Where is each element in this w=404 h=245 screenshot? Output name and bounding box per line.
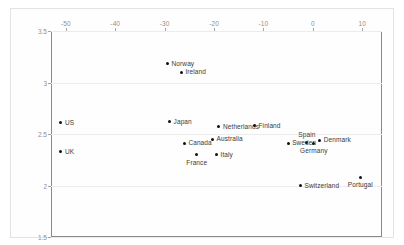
data-point-marker <box>166 62 169 65</box>
scatter-plot: -50-40-30-20-10010 1.522.533.5 NorwayIre… <box>51 31 382 237</box>
data-point-marker <box>168 120 171 123</box>
data-point-label: Denmark <box>324 136 351 143</box>
data-point-label: Portugal <box>348 181 373 188</box>
data-point-label: Germany <box>300 147 327 154</box>
data-point-label: Finland <box>259 122 281 129</box>
y-tick-label: 3.5 <box>31 28 47 35</box>
y-tick-mark <box>48 31 51 32</box>
data-point-marker <box>183 142 186 145</box>
x-tick-mark <box>165 28 166 31</box>
x-tick-label: -40 <box>110 20 120 27</box>
x-tick-label: 10 <box>359 20 366 27</box>
data-point-marker <box>359 176 362 179</box>
data-point-label: Norway <box>172 60 195 67</box>
y-tick-label: 2.5 <box>31 131 47 138</box>
x-tick-mark <box>214 28 215 31</box>
x-tick-mark <box>263 28 264 31</box>
data-point-marker <box>195 153 198 156</box>
y-tick-label: 2 <box>31 182 47 189</box>
data-point-marker <box>59 121 62 124</box>
data-point-label: Ireland <box>185 68 206 75</box>
data-point-marker <box>318 139 321 142</box>
data-point-marker <box>215 153 218 156</box>
gridline <box>51 83 382 84</box>
data-point-marker <box>180 71 183 74</box>
y-tick-mark <box>48 83 51 84</box>
y-tick-mark <box>48 186 51 187</box>
data-point-label: Canada <box>188 139 211 146</box>
data-point-label: UK <box>65 148 74 155</box>
data-point-marker <box>287 142 290 145</box>
y-tick-mark <box>48 134 51 135</box>
x-tick-label: 0 <box>311 20 315 27</box>
data-point-label: US <box>65 119 74 126</box>
data-point-marker <box>217 125 220 128</box>
data-point-label: Spain <box>298 131 315 138</box>
data-point-label: France <box>186 159 207 166</box>
chart-card: -50-40-30-20-10010 1.522.533.5 NorwayIre… <box>10 8 394 238</box>
y-tick-mark <box>48 237 51 238</box>
x-tick-mark <box>115 28 116 31</box>
data-point-label: Australia <box>217 135 243 142</box>
gridline <box>51 237 382 238</box>
y-tick-label: 1.5 <box>31 234 47 241</box>
data-point-label: Japan <box>174 118 192 125</box>
x-tick-mark <box>362 28 363 31</box>
x-tick-mark <box>66 28 67 31</box>
x-tick-label: -50 <box>61 20 71 27</box>
data-point-label: Italy <box>221 151 233 158</box>
x-tick-label: -20 <box>209 20 219 27</box>
y-tick-label: 3 <box>31 79 47 86</box>
x-tick-mark <box>313 28 314 31</box>
gridline <box>51 31 382 32</box>
data-point-label: Switzerland <box>304 182 339 189</box>
data-point-marker <box>299 184 302 187</box>
x-tick-label: -10 <box>259 20 269 27</box>
data-point-marker <box>59 150 62 153</box>
x-tick-label: -30 <box>160 20 170 27</box>
